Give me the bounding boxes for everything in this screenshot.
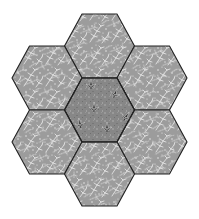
hexagon-quilt-svg (0, 0, 199, 219)
hexagon-layer (12, 14, 187, 206)
quilt-illustration (0, 0, 199, 219)
